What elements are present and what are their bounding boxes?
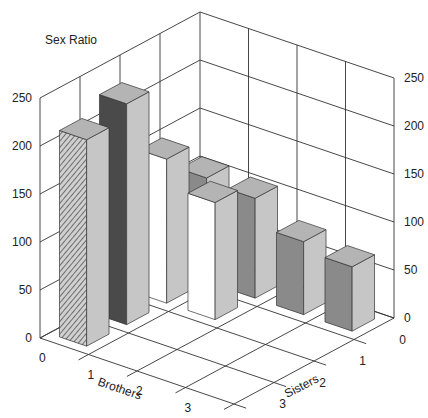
bar-side-face [87, 128, 109, 346]
y-axis-label: Sisters [282, 372, 321, 401]
z-tick-label-right: 100 [404, 215, 424, 229]
bar-side-face [304, 230, 326, 315]
bar-side-face [352, 255, 374, 331]
bar-2-0 [276, 220, 326, 314]
x-axis-label: Brothers [96, 375, 143, 403]
z-tick-label-right: 150 [404, 167, 424, 181]
bar-3-0 [325, 246, 375, 332]
bar-side-face [215, 190, 237, 319]
brothers-tick [79, 355, 89, 360]
bar-front-face [276, 232, 303, 314]
brothers-tick [224, 404, 234, 409]
bar-side-face [255, 186, 277, 298]
bar-side-face [167, 147, 189, 303]
brothers-tick [176, 388, 186, 393]
bar-front-face [188, 193, 215, 319]
bars [59, 83, 374, 347]
bar3d-chart: Sex Ratio 005050100100150150200200250250… [0, 0, 428, 418]
bar-front-face [59, 131, 86, 347]
bar-1-1 [188, 181, 238, 319]
brothers-tick-label: 1 [87, 368, 94, 382]
sisters-tick-label: 0 [399, 333, 406, 347]
brothers-tick [127, 371, 137, 376]
z-tick-label-right: 0 [404, 311, 411, 325]
brothers-tick-label: 0 [39, 351, 46, 365]
bar-side-face [127, 92, 149, 325]
z-tick-label-left: 0 [25, 331, 32, 345]
sisters-tick-label: 1 [359, 354, 366, 368]
z-tick-label-left: 100 [12, 235, 32, 249]
z-tick-label-right: 50 [404, 263, 418, 277]
sisters-tick [354, 340, 366, 344]
z-tick-label-right: 250 [404, 71, 424, 85]
sisters-tick [234, 404, 246, 408]
z-tick-label-left: 200 [12, 139, 32, 153]
bar-front-face [325, 258, 352, 332]
z-tick-label-right: 200 [404, 119, 424, 133]
chart-title: Sex Ratio [45, 33, 97, 47]
sisters-tick-label: 3 [279, 397, 286, 411]
brothers-tick-label: 3 [184, 401, 191, 415]
z-tick-label-left: 150 [12, 187, 32, 201]
z-tick-label-left: 50 [19, 283, 33, 297]
z-tick-label-left: 250 [12, 91, 32, 105]
sisters-tick [314, 361, 326, 365]
bar-0-3 [59, 118, 109, 346]
